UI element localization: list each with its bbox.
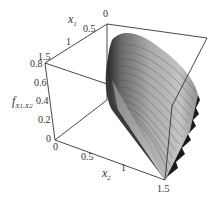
svg-text:0: 0 xyxy=(103,8,108,19)
density-surface xyxy=(106,33,200,180)
svg-text:0: 0 xyxy=(46,133,51,144)
svg-text:1.5: 1.5 xyxy=(157,183,170,194)
svg-text:x2: x2 xyxy=(101,166,111,182)
svg-text:0.2: 0.2 xyxy=(38,114,51,125)
svg-text:0.8: 0.8 xyxy=(30,58,43,69)
svg-text:0.5: 0.5 xyxy=(81,151,94,162)
svg-text:1: 1 xyxy=(66,36,71,47)
svg-text:fX1,X2: fX1,X2 xyxy=(12,94,33,110)
svg-text:0.4: 0.4 xyxy=(36,95,49,106)
svg-text:x1: x1 xyxy=(67,12,77,28)
x1-axis: x1 0 0.5 1 1.5 xyxy=(38,8,108,62)
surface-plot-3d: x1 0 0.5 1 1.5 0.8 0.6 fX1,X2 0.4 0.2 0 … xyxy=(0,0,219,198)
svg-text:1: 1 xyxy=(121,162,126,173)
svg-text:0.6: 0.6 xyxy=(34,77,47,88)
svg-text:0: 0 xyxy=(53,141,58,152)
z-axis: 0.8 0.6 fX1,X2 0.4 0.2 0 xyxy=(12,58,51,144)
svg-text:0.5: 0.5 xyxy=(83,23,96,34)
